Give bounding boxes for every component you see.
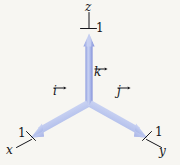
- vector-arrow-accent-icon: [117, 85, 131, 90]
- vector-arrow-accent-icon: [53, 85, 67, 90]
- vector-k-label: k: [94, 66, 101, 78]
- x-axis-tick-label: 1: [18, 127, 26, 139]
- vector-i-arrow: [31, 101, 90, 138]
- x-axis-label: x: [6, 144, 13, 156]
- vector-k-arrow: [83, 34, 94, 106]
- vector-diagram-figure: z x y 1 1 1 k i j: [0, 0, 180, 165]
- z-axis-label: z: [85, 1, 91, 13]
- vector-j-arrow: [88, 101, 147, 138]
- vector-arrow-accent-icon: [94, 66, 108, 71]
- axes-vectors-canvas: [0, 0, 180, 165]
- y-axis-label: y: [159, 145, 166, 157]
- vector-i-label: i: [53, 85, 57, 97]
- z-axis-tick-label: 1: [96, 22, 104, 34]
- x-axis-stub: [17, 140, 32, 148]
- y-axis-tick-label: 1: [155, 126, 163, 138]
- vector-j-label: j: [117, 85, 121, 97]
